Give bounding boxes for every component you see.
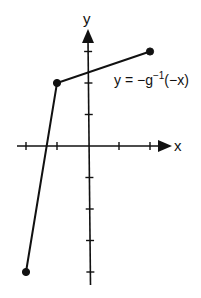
x-axis-arrow-icon — [158, 140, 172, 152]
x-axis: x — [17, 137, 182, 154]
x-axis-label: x — [174, 137, 182, 154]
closed-point-icon — [22, 268, 29, 275]
y-axis-arrow-icon — [82, 29, 94, 43]
function-graph: x y y = −g−1(−x) — [0, 0, 201, 298]
closed-point-icon — [53, 79, 60, 86]
function-label: y = −g−1(−x) — [114, 70, 189, 88]
y-axis-label: y — [83, 10, 91, 27]
closed-point-icon — [146, 48, 153, 55]
y-axis: y — [82, 10, 94, 285]
